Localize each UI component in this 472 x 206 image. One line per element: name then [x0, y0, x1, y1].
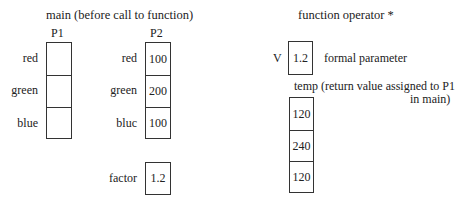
temp-red-cell: 120: [290, 98, 313, 130]
main-title: main (before call to function): [46, 8, 193, 23]
v-param-box: 1.2: [288, 41, 313, 75]
p1-struct-box: [46, 42, 72, 139]
temp-struct-box: 120 240 120: [289, 97, 314, 193]
p1-field-green-label: green: [11, 83, 38, 98]
p2-label: P2: [150, 26, 163, 41]
temp-green-cell: 240: [290, 130, 313, 162]
p2-struct-box: 100 200 100: [145, 42, 171, 139]
factor-value: 1.2: [146, 163, 170, 194]
function-title: function operator *: [298, 8, 394, 23]
factor-label: factor: [109, 171, 137, 186]
v-label: V: [273, 51, 282, 66]
v-param-value: 1.2: [289, 42, 312, 74]
p1-label: P1: [51, 26, 64, 41]
p2-red-cell: 100: [146, 43, 170, 75]
temp-caption-line2: in main): [410, 92, 450, 107]
p1-field-blue-label: blue: [17, 116, 38, 131]
p1-blue-cell: [47, 107, 71, 139]
p1-green-cell: [47, 75, 71, 107]
p1-field-red-label: red: [23, 51, 38, 66]
p2-field-blue-label: bluc: [116, 116, 137, 131]
temp-blue-cell: 120: [290, 161, 313, 193]
p1-red-cell: [47, 43, 71, 75]
p2-field-red-label: red: [122, 51, 137, 66]
factor-box: 1.2: [145, 162, 171, 195]
p2-field-green-label: green: [110, 83, 137, 98]
formal-parameter-note: formal parameter: [324, 51, 407, 66]
p2-green-cell: 200: [146, 75, 170, 107]
p2-blue-cell: 100: [146, 107, 170, 139]
